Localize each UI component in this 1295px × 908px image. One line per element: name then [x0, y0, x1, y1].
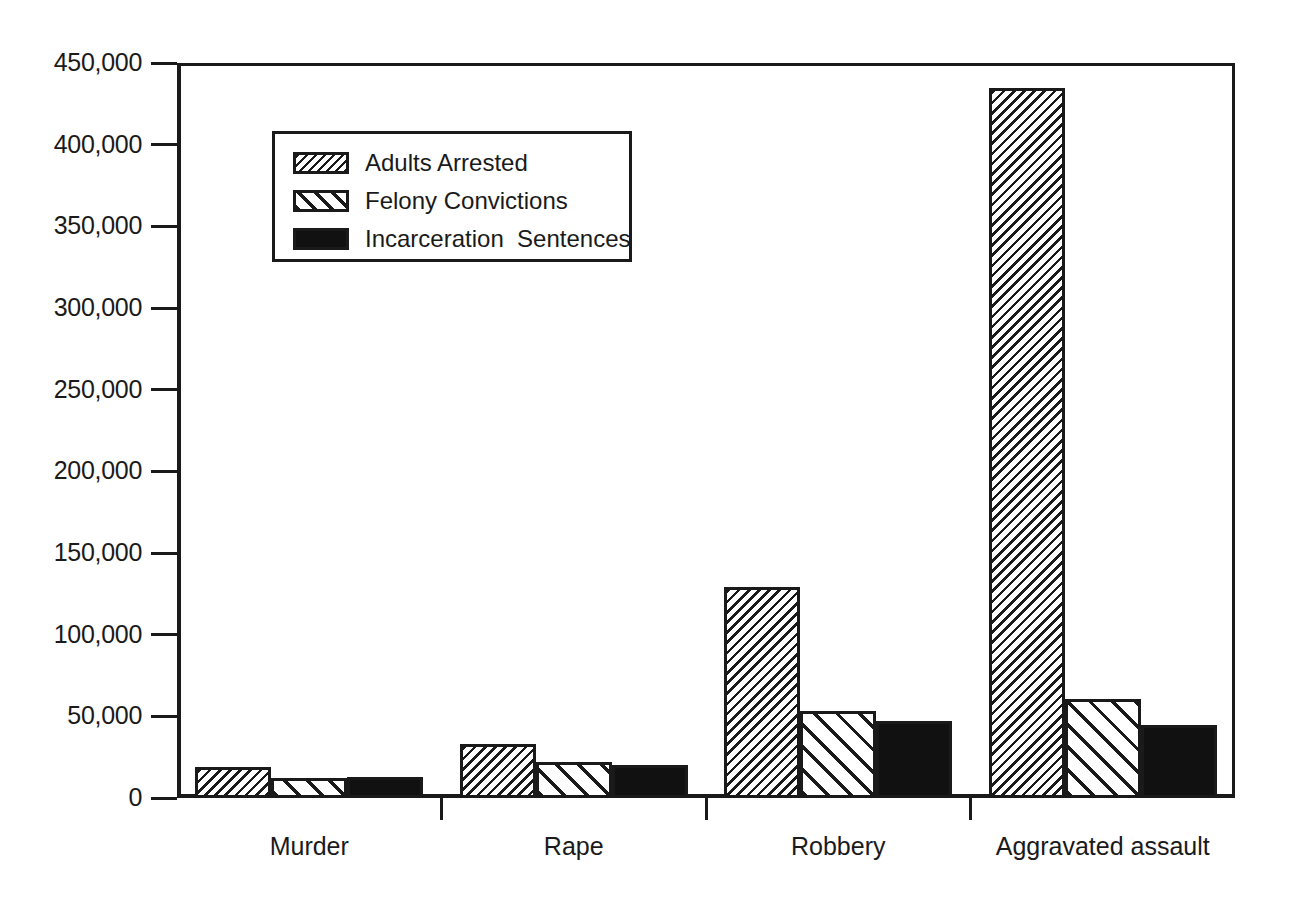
y-axis-tick-label: 0: [128, 783, 142, 812]
bar-group: [989, 63, 1217, 798]
y-axis: 050,000100,000150,000200,000250,000300,0…: [0, 0, 177, 908]
chart-legend: Adults ArrestedFelony ConvictionsIncarce…: [272, 131, 632, 262]
y-axis-tick-label: 350,000: [54, 211, 142, 240]
y-axis-tick-mark: [151, 715, 177, 718]
legend-item: Incarceration Sentences: [293, 221, 629, 257]
bar: [989, 88, 1065, 799]
y-axis-tick-label: 100,000: [54, 620, 142, 649]
x-axis-category-label: Robbery: [791, 832, 886, 861]
bar: [876, 721, 952, 798]
bar: [724, 587, 800, 798]
y-axis-tick-label: 450,000: [54, 48, 142, 77]
x-axis-tick-mark: [705, 798, 708, 820]
legend-item: Adults Arrested: [293, 145, 629, 181]
y-axis-tick-label: 50,000: [67, 701, 142, 730]
bar: [800, 711, 876, 798]
legend-item-label: Adults Arrested: [365, 149, 528, 177]
x-axis-labels: MurderRapeRobberyAggravated assault: [177, 832, 1235, 872]
y-axis-tick-mark: [151, 633, 177, 636]
bar: [536, 762, 612, 798]
legend-swatch-icon: [293, 190, 349, 212]
bar: [460, 744, 536, 798]
y-axis-tick-label: 200,000: [54, 456, 142, 485]
y-axis-tick-mark: [151, 388, 177, 391]
x-axis-tick-mark: [440, 798, 443, 820]
bar: [271, 778, 347, 798]
y-axis-tick-label: 250,000: [54, 375, 142, 404]
y-axis-tick-mark: [151, 62, 177, 65]
y-axis-tick-mark: [151, 307, 177, 310]
y-axis-tick-label: 150,000: [54, 538, 142, 567]
bar: [195, 767, 271, 798]
bar: [1141, 725, 1217, 798]
y-axis-tick-mark: [151, 797, 177, 800]
x-axis-ticks: [177, 798, 1235, 822]
x-axis-category-label: Rape: [544, 832, 604, 861]
legend-item-label: Felony Convictions: [365, 187, 568, 215]
y-axis-tick-mark: [151, 143, 177, 146]
y-axis-tick-mark: [151, 225, 177, 228]
y-axis-tick-label: 300,000: [54, 293, 142, 322]
legend-swatch-icon: [293, 228, 349, 250]
legend-item-label: Incarceration Sentences: [365, 225, 631, 253]
bar: [1065, 699, 1141, 798]
bar-chart: 050,000100,000150,000200,000250,000300,0…: [0, 0, 1295, 908]
y-axis-tick-label: 400,000: [54, 130, 142, 159]
x-axis-tick-mark: [969, 798, 972, 820]
bar: [347, 777, 423, 798]
legend-swatch-icon: [293, 152, 349, 174]
legend-item: Felony Convictions: [293, 183, 629, 219]
x-axis-category-label: Murder: [270, 832, 349, 861]
bar: [612, 765, 688, 798]
y-axis-tick-mark: [151, 470, 177, 473]
y-axis-tick-mark: [151, 552, 177, 555]
x-axis-category-label: Aggravated assault: [996, 832, 1210, 861]
bar-group: [724, 63, 952, 798]
